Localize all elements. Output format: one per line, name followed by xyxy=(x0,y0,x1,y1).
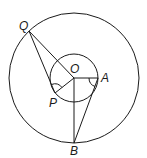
segment-OP xyxy=(55,78,74,93)
geometry-diagram: Q O A P B xyxy=(0,0,147,158)
point-label-A: A xyxy=(100,71,109,85)
point-label-P: P xyxy=(49,96,57,110)
point-label-O: O xyxy=(70,62,79,76)
segment-QP xyxy=(29,31,55,93)
point-label-Q: Q xyxy=(19,19,28,33)
angle-mark-A xyxy=(89,78,95,87)
point-label-B: B xyxy=(70,144,78,158)
segment-AB xyxy=(74,78,98,143)
angle-mark-P xyxy=(52,84,63,88)
